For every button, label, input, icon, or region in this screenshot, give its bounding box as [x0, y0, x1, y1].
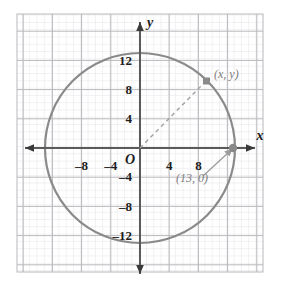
point-xy-marker[interactable]	[203, 78, 210, 85]
x-axis-label: x	[256, 128, 264, 143]
graph-canvas: –8 –4 4 8 12 8 4 –4 –8 –12 O x y (x, y) …	[0, 0, 281, 284]
point-13-0-marker[interactable]	[229, 144, 237, 152]
y-tick-label-pos12: 12	[119, 53, 132, 68]
point-xy-label: (x, y)	[214, 67, 239, 81]
y-tick-label-neg12: –12	[112, 228, 133, 243]
point-13-0-label: (13, 0)	[176, 171, 208, 185]
x-tick-label-pos4: 4	[166, 158, 173, 173]
y-tick-label-pos8: 8	[126, 82, 133, 97]
x-tick-label-neg4: –4	[103, 158, 118, 173]
y-axis-label: y	[145, 15, 154, 30]
y-tick-label-neg8: –8	[118, 199, 133, 214]
coordinate-plane-figure: –8 –4 4 8 12 8 4 –4 –8 –12 O x y (x, y) …	[0, 0, 281, 284]
x-tick-label-neg8: –8	[74, 158, 89, 173]
y-tick-label-pos4: 4	[126, 111, 133, 126]
origin-label: O	[125, 152, 135, 167]
y-tick-label-neg4: –4	[118, 169, 133, 184]
